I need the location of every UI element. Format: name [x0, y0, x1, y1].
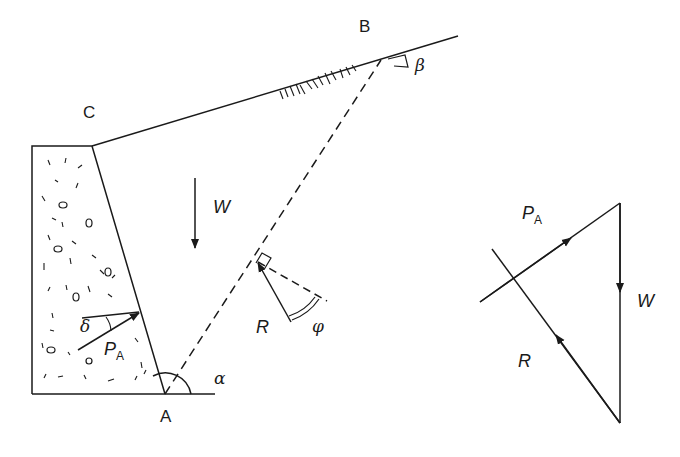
pa-symbol-polygon: P — [522, 203, 534, 223]
phi-label: φ — [312, 318, 324, 335]
diagram-lines — [0, 0, 680, 457]
polygon-pa-arrowhead — [480, 238, 571, 302]
r-label-wedge: R — [256, 318, 269, 336]
point-c-label: C — [83, 104, 95, 121]
pa-symbol: P — [104, 339, 116, 359]
pa-subscript-polygon: A — [534, 213, 542, 227]
pa-label-wedge: PA — [104, 340, 124, 358]
diagram-canvas: B C A β α δ φ W PA R PA W R — [0, 0, 680, 457]
wall-normal-line — [82, 312, 139, 318]
w-label-polygon: W — [637, 292, 654, 310]
retaining-wall — [32, 146, 165, 394]
point-a-label: A — [160, 408, 171, 425]
failure-plane — [165, 60, 381, 394]
delta-arc — [106, 317, 111, 331]
r-label-polygon: R — [518, 352, 531, 370]
wall-pebbles — [47, 202, 111, 364]
phi-arc — [289, 297, 315, 316]
alpha-arc — [153, 373, 191, 394]
polygon-r-arrowhead — [556, 335, 620, 423]
beta-label: β — [415, 57, 425, 74]
ground-surface — [92, 36, 458, 146]
point-b-label: B — [359, 18, 370, 35]
w-label-wedge: W — [213, 198, 230, 216]
pa-label-polygon: PA — [522, 204, 542, 222]
wall-fill-pattern — [42, 158, 146, 381]
alpha-label: α — [214, 370, 225, 387]
pa-subscript: A — [116, 349, 124, 363]
delta-label: δ — [80, 318, 90, 335]
